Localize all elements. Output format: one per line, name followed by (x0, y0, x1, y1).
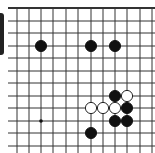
white-stone[interactable] (85, 102, 96, 113)
board-grid (8, 8, 155, 153)
stones-layer[interactable] (35, 40, 132, 138)
black-stone[interactable] (109, 40, 120, 51)
white-stone[interactable] (97, 102, 108, 113)
black-stone[interactable] (85, 40, 96, 51)
black-stone[interactable] (109, 115, 120, 126)
white-stone[interactable] (121, 90, 132, 101)
black-stone[interactable] (121, 102, 132, 113)
black-stone[interactable] (35, 40, 46, 51)
black-stone[interactable] (85, 127, 96, 138)
go-board[interactable] (0, 0, 155, 153)
white-stone[interactable] (109, 102, 120, 113)
black-stone[interactable] (121, 115, 132, 126)
black-stone[interactable] (109, 90, 120, 101)
star-points (39, 119, 43, 123)
star-point (39, 119, 43, 123)
